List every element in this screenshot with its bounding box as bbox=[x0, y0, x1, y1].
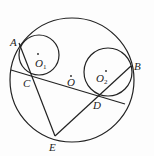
label-e: E bbox=[48, 141, 56, 153]
center-dot-o1 bbox=[37, 53, 39, 55]
circle-o1 bbox=[19, 35, 59, 75]
label-o2: O2 bbox=[96, 72, 108, 86]
label-o1: O1 bbox=[35, 57, 47, 71]
label-c: C bbox=[23, 77, 31, 89]
geometry-diagram: A B C D E O O1 O2 bbox=[0, 0, 154, 156]
diagram-svg: A B C D E O O1 O2 bbox=[0, 0, 154, 156]
label-o: O bbox=[67, 76, 75, 88]
center-dot-o2 bbox=[105, 70, 107, 72]
label-a: A bbox=[9, 36, 17, 48]
label-d: D bbox=[92, 99, 101, 111]
label-b: B bbox=[134, 60, 141, 72]
